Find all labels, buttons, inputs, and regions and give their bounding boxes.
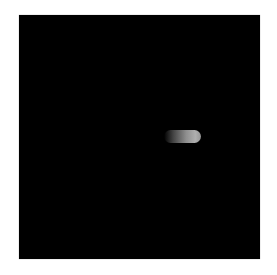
micrograph-frame	[19, 15, 260, 259]
fluorescent-rod-object	[164, 130, 201, 143]
